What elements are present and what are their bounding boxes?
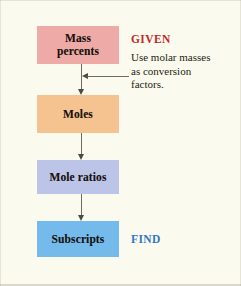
flow-box-mass-percents-label: Mass percents	[57, 32, 99, 58]
annotation-note: Use molar masses as conversion factors.	[131, 51, 235, 92]
arrow-shaft	[81, 133, 82, 154]
flow-box-mole-ratios-label: Mole ratios	[50, 171, 107, 184]
flow-box-mole-ratios: Mole ratios	[37, 160, 119, 194]
flow-box-moles-label: Moles	[63, 108, 93, 121]
arrow-down-mole-ratios-to-subscripts	[77, 194, 86, 221]
flow-box-mass-percents-line2: percents	[57, 45, 99, 57]
flow-box-subscripts-label: Subscripts	[52, 233, 105, 246]
annotation-note-line2: as conversion	[131, 65, 235, 79]
label-find: FIND	[131, 233, 161, 245]
figure-edge-left	[0, 0, 1, 286]
flowchart-diagram: Mass percents Moles Mole ratios Subscrip…	[0, 0, 241, 286]
arrow-down-moles-to-mole-ratios	[77, 133, 86, 160]
arrow-left-annotation-pointer	[82, 72, 129, 80]
annotation-note-line1: Use molar masses	[131, 51, 235, 65]
figure-edge-right	[240, 0, 241, 286]
label-given: GIVEN	[131, 33, 171, 45]
arrow-shaft	[81, 194, 82, 215]
flow-box-subscripts: Subscripts	[37, 221, 119, 257]
flow-box-mass-percents: Mass percents	[37, 26, 119, 64]
figure-edge-top	[0, 0, 241, 1]
flow-box-moles: Moles	[37, 95, 119, 133]
arrow-shaft	[87, 76, 129, 77]
flow-box-mass-percents-line1: Mass	[65, 32, 91, 44]
annotation-note-line3: factors.	[131, 78, 235, 92]
